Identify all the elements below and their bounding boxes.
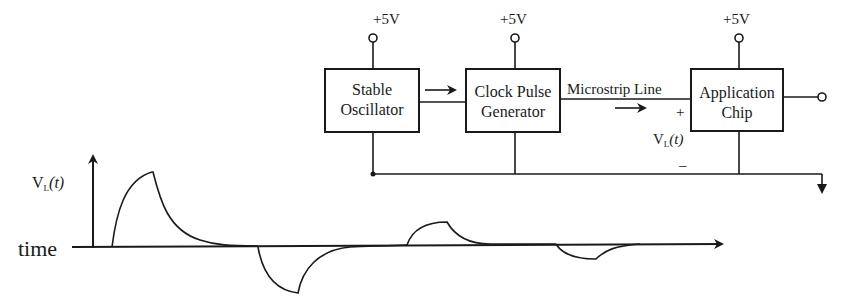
y-axis-label: VL(t) xyxy=(32,174,64,193)
microstrip-label: Microstrip Line xyxy=(567,81,662,97)
load-voltage-label: VL(t) xyxy=(653,131,684,149)
ground-arrow-icon xyxy=(817,184,827,194)
supply-label-app: +5V xyxy=(723,11,750,27)
junction-dot xyxy=(371,172,376,177)
x-axis-label: time xyxy=(18,236,57,261)
block-chip-line2: Chip xyxy=(721,104,752,122)
output-terminal xyxy=(818,93,826,101)
block-oscillator-line2: Oscillator xyxy=(340,101,404,118)
waveform-pulse-1 xyxy=(112,172,258,247)
supply-terminal-oscillator xyxy=(369,34,377,42)
supply-label-oscillator: +5V xyxy=(373,11,400,27)
block-clock-pulse-generator xyxy=(466,69,560,132)
block-clock-line2: Generator xyxy=(481,103,546,120)
minus-sign: – xyxy=(678,157,687,173)
supply-terminal-app xyxy=(735,34,743,42)
supply-label-clock: +5V xyxy=(500,11,527,27)
waveform-plot: VL(t) time xyxy=(18,156,722,293)
block-diagram: +5V +5V +5V Stable Oscillator Clock Puls… xyxy=(325,11,827,194)
block-clock-line1: Clock Pulse xyxy=(475,83,552,100)
waveform-pulse-4 xyxy=(556,244,640,259)
waveform-pulse-2 xyxy=(258,245,407,293)
diagram-canvas: +5V +5V +5V Stable Oscillator Clock Puls… xyxy=(0,0,843,306)
supply-terminal-clock xyxy=(511,34,519,42)
waveform-pulse-3 xyxy=(407,222,556,245)
block-oscillator-line1: Stable xyxy=(352,81,392,98)
plus-sign: + xyxy=(676,104,684,120)
block-chip-line1: Application xyxy=(699,84,775,102)
